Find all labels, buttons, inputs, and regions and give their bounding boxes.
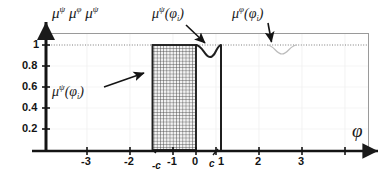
- annotation-mu-phi-top-base: μ: [232, 6, 239, 21]
- y-axis-mu-3: μ: [85, 5, 93, 21]
- y-tick-label-0.2: 0.2: [22, 122, 37, 134]
- annotation-mu-psi-top-arg: φ: [169, 6, 177, 21]
- x-tick-label--3: -3: [81, 155, 91, 167]
- y-axis-mu-1: μ: [52, 5, 60, 21]
- y-axis-mu-2-sup: φ: [76, 4, 81, 14]
- y-axis-mu-3-sup: ψ: [93, 4, 99, 14]
- annotation-mu-phi-top-close: ): [259, 6, 264, 21]
- annotation-mu-psi-left-base: μ: [52, 84, 59, 99]
- annotation-mu-psi-top: μψ(φi): [152, 4, 184, 23]
- hatched-support-block: [153, 45, 197, 150]
- x-tick-label-0: 0: [192, 155, 198, 167]
- y-tick-label-0.4: 0.4: [22, 101, 37, 113]
- annotation-mu-psi-top-base: μ: [152, 6, 159, 21]
- x-tick-label--1: -1: [167, 155, 177, 167]
- x-tick-label-neg-c: -c: [152, 160, 161, 171]
- x-tick-label--2: -2: [124, 155, 134, 167]
- y-axis-mu-1-sup: ψ: [60, 4, 66, 14]
- annotation-mu-phi-top: μφ(φi): [232, 4, 263, 23]
- y-tick-label-0.8: 0.8: [22, 59, 37, 71]
- x-tick-label-3: 3: [298, 155, 304, 167]
- y-tick-label-1: 1: [33, 38, 39, 50]
- annotation-mu-psi-left-close: ): [79, 84, 84, 99]
- x-tick-label-2: 2: [255, 155, 261, 167]
- x-axis-label: φ: [352, 120, 363, 142]
- annotation-mu-psi-top-close: ): [179, 6, 184, 21]
- y-tick-label-0.6: 0.6: [22, 80, 37, 92]
- annotation-mu-psi-left-arg: φ: [69, 84, 77, 99]
- plot-area: [46, 33, 369, 151]
- x-tick-label-pos-c: c: [209, 158, 215, 169]
- x-tick-label-1: 1: [218, 155, 224, 167]
- y-axis-label: μψ μφ μψ: [52, 4, 98, 22]
- annotation-mu-psi-left: μψ(φi): [52, 82, 84, 101]
